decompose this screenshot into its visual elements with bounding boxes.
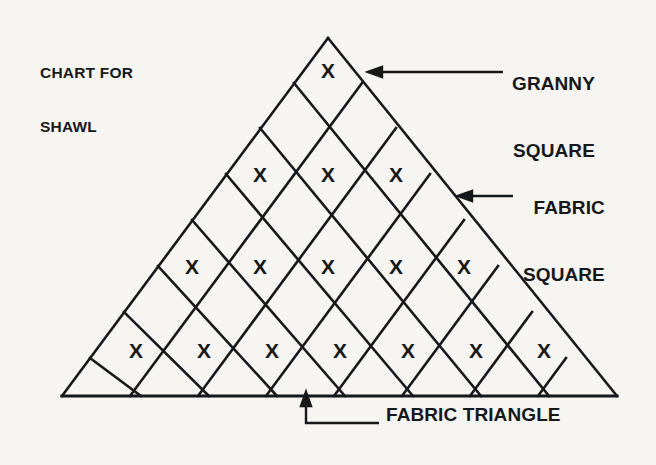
granny-square-mark: X — [401, 339, 415, 362]
granny-square-mark: X — [253, 255, 267, 278]
granny-square-mark: X — [537, 339, 551, 362]
granny-square-marks: XXXXXXXXXXXXXXXX — [129, 59, 551, 362]
fabric-triangle-leader-line — [306, 404, 379, 423]
granny-square-arrowhead — [368, 67, 382, 77]
granny-square-mark: X — [389, 163, 403, 186]
granny-square-mark: X — [457, 255, 471, 278]
granny-square-label-line1: GRANNY — [512, 73, 595, 95]
lattice-line-dr-3 — [266, 174, 430, 396]
lattice-line-dl-5 — [158, 266, 277, 396]
granny-square-mark: X — [321, 59, 335, 82]
granny-square-mark: X — [389, 255, 403, 278]
lattice-line-dr-4 — [334, 220, 464, 396]
lattice-line-dl-3 — [226, 174, 413, 396]
lattice-line-dl-7 — [90, 358, 141, 396]
fabric-triangle-arrowhead — [301, 392, 311, 406]
fabric-square-label-line1: FABRIC — [523, 197, 605, 219]
lattice-line-dr-7 — [538, 358, 566, 396]
granny-square-mark: X — [253, 163, 267, 186]
granny-square-mark: X — [469, 339, 483, 362]
lattice-line-dl-4 — [192, 220, 345, 396]
granny-square-mark: X — [321, 163, 335, 186]
lattice-line-dr-1 — [130, 83, 362, 396]
page-title-line2: SHAWL — [40, 118, 133, 136]
fabric-triangle-label: FABRIC TRIANGLE — [386, 404, 561, 426]
page-title-line1: CHART FOR — [40, 64, 133, 82]
granny-square-mark: X — [265, 339, 279, 362]
granny-square-mark: X — [129, 339, 143, 362]
fabric-square-label: FABRIC SQUARE — [523, 152, 605, 331]
granny-square-mark: X — [333, 339, 347, 362]
page-title: CHART FOR SHAWL — [40, 27, 133, 173]
fabric-square-arrowhead — [458, 191, 472, 201]
granny-square-mark: X — [197, 339, 211, 362]
chart-canvas: XXXXXXXXXXXXXXXX CHART FOR SHAWL GRANNY … — [0, 0, 656, 465]
fabric-square-label-line2: SQUARE — [523, 264, 605, 286]
granny-square-mark: X — [321, 255, 335, 278]
granny-square-mark: X — [185, 255, 199, 278]
lattice-line-dl-2 — [260, 128, 481, 396]
